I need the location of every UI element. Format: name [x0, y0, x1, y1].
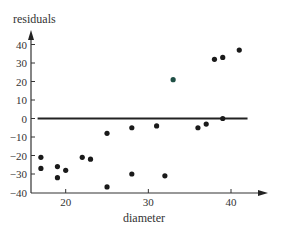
x-tick-label: 40 [226, 196, 238, 208]
y-axis-label: residuals [13, 12, 56, 26]
data-point [154, 123, 159, 128]
y-tick-label: −30 [10, 168, 28, 180]
data-point [220, 116, 225, 121]
y-tick-label: 30 [16, 57, 28, 69]
x-ticks: 203040 [60, 189, 237, 208]
y-axis-arrow-icon [28, 30, 34, 40]
y-tick-label: −10 [10, 131, 28, 143]
data-point [171, 77, 176, 82]
y-tick-label: −40 [10, 187, 28, 199]
x-axis-label: diameter [123, 211, 165, 225]
y-tick-label: 20 [16, 76, 28, 88]
data-point [55, 175, 60, 180]
y-ticks: 403020100−10−20−30−40 [10, 39, 35, 199]
x-tick-label: 30 [143, 196, 155, 208]
y-tick-label: −20 [10, 150, 28, 162]
data-point [129, 125, 134, 130]
data-point [104, 184, 109, 189]
x-axis-arrow-icon [258, 190, 268, 196]
y-tick-label: 0 [22, 113, 28, 125]
data-point [237, 47, 242, 52]
data-point [80, 155, 85, 160]
data-point [204, 121, 209, 126]
data-point [162, 173, 167, 178]
data-point [104, 131, 109, 136]
x-tick-label: 20 [60, 196, 72, 208]
data-point [212, 57, 217, 62]
data-point [38, 155, 43, 160]
data-point [220, 55, 225, 60]
data-point [63, 168, 68, 173]
data-point [195, 125, 200, 130]
data-point [88, 157, 93, 162]
y-axis [28, 30, 34, 193]
residual-plot: residuals diameter 403020100−10−20−30−40… [0, 0, 283, 232]
y-tick-label: 10 [16, 94, 28, 106]
data-point [55, 164, 60, 169]
data-point [129, 171, 134, 176]
data-point [38, 166, 43, 171]
y-tick-label: 40 [16, 39, 28, 51]
